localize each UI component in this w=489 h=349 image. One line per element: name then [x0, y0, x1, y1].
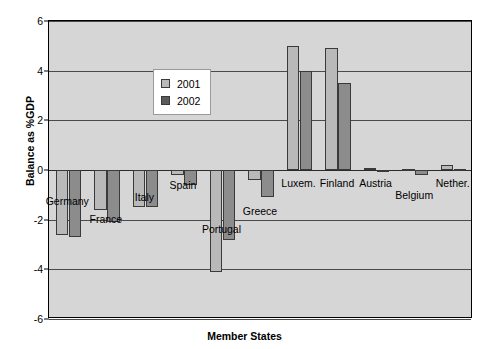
y-tick-label--4: -4: [34, 263, 43, 275]
category-label-luxem: Luxem.: [281, 177, 315, 189]
bars-layer: [49, 21, 471, 317]
legend-item-2002: 2002: [161, 92, 200, 109]
category-label-austria: Austria: [359, 177, 392, 189]
bar-greece-2001: [248, 170, 261, 180]
category-label-italy: Italy: [135, 191, 154, 203]
category-label-france: France: [89, 213, 122, 225]
bar-france-2001: [94, 170, 107, 210]
bar-chart: Balance as %GDP Member States 6420-2-4-6…: [0, 0, 489, 349]
legend-label-2001: 2001: [177, 78, 200, 90]
bar-finland-2002: [338, 83, 351, 170]
y-tick-label-0: 0: [37, 164, 43, 176]
bar-belgium-2001: [402, 169, 415, 171]
bar-austria-2001: [364, 168, 377, 170]
y-tick-label--6: -6: [34, 313, 43, 325]
y-tick-label-2: 2: [37, 114, 43, 126]
bar-spain-2001: [171, 170, 184, 175]
category-label-portugal: Portugal: [202, 223, 241, 235]
y-tick-mark--6: [44, 319, 49, 320]
legend-label-2002: 2002: [177, 95, 200, 107]
category-label-greece: Greece: [243, 205, 277, 217]
legend-swatch-2001: [161, 79, 170, 88]
plot-area: 6420-2-4-6 2001 2002: [48, 20, 472, 318]
bar-luxem-2001: [287, 46, 300, 170]
gridline--6: [49, 319, 471, 320]
legend: 2001 2002: [153, 69, 211, 115]
legend-swatch-2002: [161, 96, 170, 105]
category-label-germany: Germany: [46, 195, 89, 207]
bar-luxem-2002: [300, 71, 313, 170]
bar-finland-2001: [325, 48, 338, 170]
bar-nether-2002: [454, 169, 467, 171]
y-tick-label-4: 4: [37, 65, 43, 77]
bar-portugal-2001: [210, 170, 223, 272]
bar-austria-2002: [377, 170, 390, 172]
category-label-nether: Nether.: [436, 177, 470, 189]
x-axis-title: Member States: [0, 330, 489, 342]
category-label-finland: Finland: [320, 177, 354, 189]
bar-nether-2001: [441, 165, 454, 170]
category-label-belgium: Belgium: [395, 189, 433, 201]
bar-greece-2002: [261, 170, 274, 197]
category-label-spain: Spain: [169, 179, 196, 191]
legend-item-2001: 2001: [161, 75, 200, 92]
bar-belgium-2002: [415, 170, 428, 175]
y-tick-label--2: -2: [34, 214, 43, 226]
y-tick-label-6: 6: [37, 15, 43, 27]
y-axis-title: Balance as %GDP: [24, 71, 36, 211]
